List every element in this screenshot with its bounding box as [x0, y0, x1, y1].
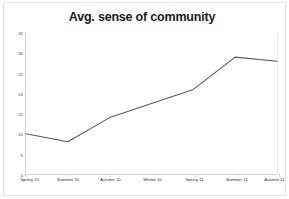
- series-line: [26, 57, 277, 142]
- x-axis-tick-label: Spring 10: [20, 177, 38, 182]
- x-axis-tick-mark: [26, 174, 27, 177]
- x-axis-tick-mark: [68, 174, 69, 177]
- x-axis-tick-label: Autumn 10: [100, 177, 121, 182]
- x-axis-tick-label: Autumn 11: [264, 177, 284, 182]
- x-axis-tick-label: Summer 10: [57, 177, 79, 182]
- y-axis-tick-mark: [24, 53, 27, 54]
- chart-title: Avg. sense of community: [44, 10, 240, 25]
- y-axis-tick-mark: [24, 134, 27, 135]
- x-axis-tick-mark: [237, 174, 238, 177]
- x-axis-tick-mark: [279, 174, 280, 177]
- x-axis-tick-mark: [195, 174, 196, 177]
- x-axis-tick-label: Summer 11: [226, 177, 248, 182]
- plot-area: 05101520253035Spring 10Summer 10Autumn 1…: [25, 33, 278, 175]
- line-chart: Avg. sense of community 05101520253035Sp…: [0, 0, 289, 199]
- y-axis-tick-mark: [24, 93, 27, 94]
- series-layer: [26, 33, 277, 174]
- y-axis-tick-mark: [24, 114, 27, 115]
- y-axis-tick-mark: [24, 73, 27, 74]
- y-axis-tick-mark: [24, 154, 27, 155]
- y-axis-tick-mark: [24, 33, 27, 34]
- x-axis-tick-label: Spring 11: [186, 177, 204, 182]
- x-axis-tick-label: Winter 10: [143, 177, 161, 182]
- x-axis-tick-mark: [110, 174, 111, 177]
- x-axis-tick-mark: [153, 174, 154, 177]
- chart-screenshot: Avg. sense of community 05101520253035Sp…: [0, 0, 289, 199]
